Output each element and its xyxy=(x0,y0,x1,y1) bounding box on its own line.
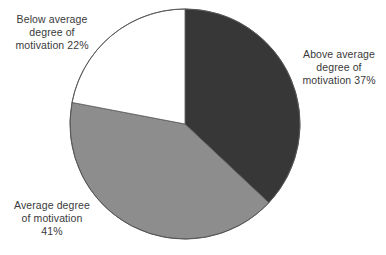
pie-label-below-average: Below average degree of motivation 22% xyxy=(2,13,102,52)
pie-slices xyxy=(70,9,300,239)
pie-chart-figure: Below average degree of motivation 22% A… xyxy=(0,0,386,255)
pie-label-average: Average degree of motivation 41% xyxy=(1,199,103,238)
pie-label-above-average: Above average degree of motivation 37% xyxy=(292,48,386,87)
